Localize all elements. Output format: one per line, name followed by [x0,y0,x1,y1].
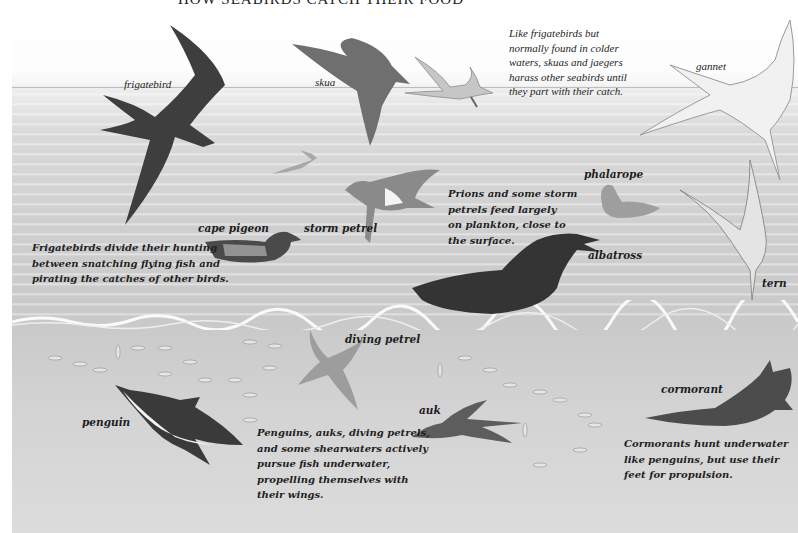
label-skua: skua [315,76,335,88]
note-penguins: Penguins, auks, diving petrels, and some… [257,425,430,503]
label-storm-petrel: storm petrel [304,222,377,234]
label-phalarope: phalarope [584,168,643,180]
label-albatross: albatross [588,249,642,261]
label-auk: auk [419,404,441,416]
cormorant-illustration [645,360,795,430]
label-diving-petrel: diving petrel [345,333,420,345]
flying-fish-illustration [272,150,317,180]
note-prions: Prions and some storm petrels feed large… [448,186,577,248]
frigatebird-illustration [95,25,255,225]
surface-foam-line [12,300,798,330]
phalarope-illustration [588,182,660,222]
tern-with-fish-illustration [405,57,495,107]
note-skua: Like frigatebirds but normally found in … [509,26,627,99]
label-cormorant: cormorant [661,383,723,395]
label-frigatebird: frigatebird [124,78,171,90]
label-cape-pigeon: cape pigeon [198,222,269,234]
skua-illustration [292,36,417,146]
label-gannet: gannet [696,60,726,72]
label-tern: tern [762,277,787,289]
gannet-illustration [640,20,798,180]
note-cormorants: Cormorants hunt underwater like penguins… [624,436,788,483]
seabird-illustration: HOW SEABIRDS CATCH THEIR FOOD [0,0,798,533]
label-penguin: penguin [82,416,130,428]
note-frigatebird: Frigatebirds divide their hunting betwee… [32,240,229,287]
page-title: HOW SEABIRDS CATCH THEIR FOOD [178,0,464,8]
